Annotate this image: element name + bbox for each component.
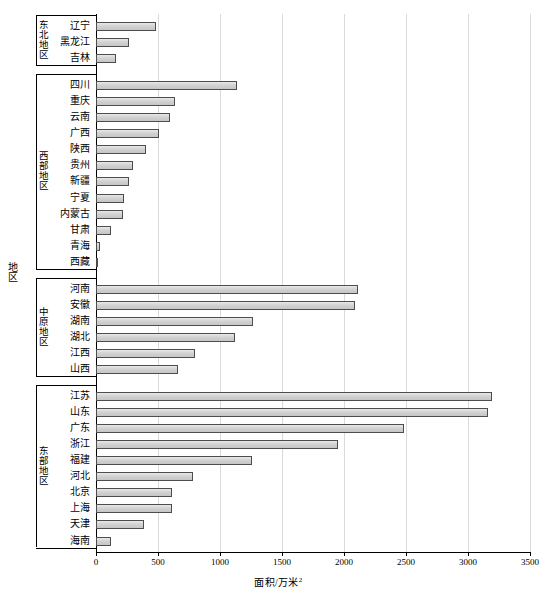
bar <box>96 333 235 342</box>
bar <box>96 242 100 251</box>
x-axis-tick <box>96 552 97 556</box>
bar-chart: 地区 辽宁黑龙江吉林四川重庆云南广西陕西贵州新疆宁夏内蒙古甘肃青海西藏河南安徽湖… <box>0 0 557 600</box>
bar <box>96 408 488 417</box>
bar <box>96 161 133 170</box>
x-axis-title: 面积/万米2 <box>0 574 557 589</box>
bar <box>96 317 253 326</box>
bar <box>96 194 124 203</box>
bar <box>96 472 193 481</box>
x-axis-tick-label: 1500 <box>262 557 302 568</box>
group-separator <box>36 376 96 377</box>
bar <box>96 226 111 235</box>
x-axis-tick <box>468 552 469 556</box>
bar <box>96 81 237 90</box>
gridline <box>220 14 221 552</box>
group-separator <box>36 548 96 549</box>
x-axis-tick-label: 0 <box>76 557 116 568</box>
bar <box>96 210 123 219</box>
x-axis-tick-label: 3500 <box>510 557 550 568</box>
x-axis-tick <box>530 552 531 556</box>
bar <box>96 456 252 465</box>
bar <box>96 113 170 122</box>
bar <box>96 54 116 63</box>
group-separator <box>36 269 96 270</box>
bar <box>96 145 146 154</box>
bar <box>96 440 338 449</box>
x-axis-tick-label: 3000 <box>448 557 488 568</box>
group-label: 西部地区 <box>36 74 50 269</box>
bar <box>96 129 159 138</box>
bar <box>96 301 355 310</box>
bar <box>96 177 129 186</box>
bar <box>96 424 404 433</box>
bar <box>96 504 172 513</box>
gridline <box>406 14 407 552</box>
bar <box>96 22 156 31</box>
bar <box>96 365 178 374</box>
group-separator <box>36 65 96 66</box>
x-axis-title-text: 面积/万米 <box>254 577 298 588</box>
bar <box>96 38 129 47</box>
gridline <box>282 14 283 552</box>
x-axis-tick-label: 2500 <box>386 557 426 568</box>
x-axis-tick-label: 2000 <box>324 557 364 568</box>
x-axis-line <box>96 552 530 553</box>
gridline <box>530 14 531 552</box>
x-axis-tick <box>158 552 159 556</box>
bar <box>96 258 98 267</box>
bar <box>96 537 111 546</box>
bar <box>96 520 144 529</box>
gridline <box>344 14 345 552</box>
bar <box>96 488 172 497</box>
group-label: 东北地区 <box>36 15 50 65</box>
bar <box>96 392 492 401</box>
x-axis-tick-label: 1000 <box>200 557 240 568</box>
gridline <box>468 14 469 552</box>
x-axis-tick <box>406 552 407 556</box>
x-axis-tick <box>282 552 283 556</box>
x-axis-title-exponent: 2 <box>299 576 303 584</box>
group-label: 东部地区 <box>36 385 50 548</box>
bar <box>96 349 195 358</box>
bar <box>96 285 358 294</box>
x-axis-tick <box>344 552 345 556</box>
bar <box>96 97 175 106</box>
x-axis-tick-label: 500 <box>138 557 178 568</box>
x-axis-tick <box>220 552 221 556</box>
group-label: 中原地区 <box>36 278 50 377</box>
